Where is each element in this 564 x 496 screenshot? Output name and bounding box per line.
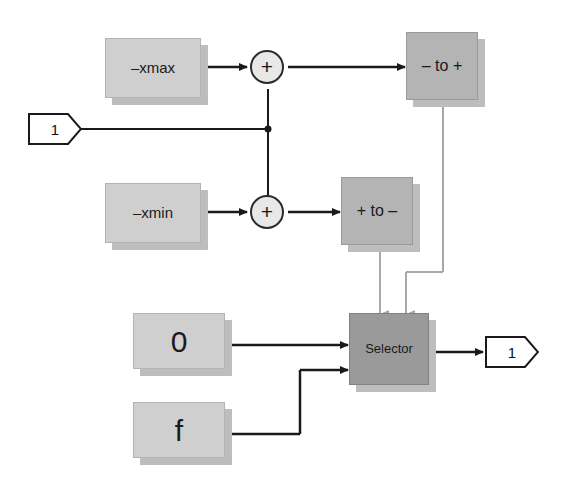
block-pos-to-neg[interactable]: + to – xyxy=(341,177,413,245)
wire-junction xyxy=(265,126,272,133)
sum-junction-bottom[interactable]: + xyxy=(250,195,284,229)
block-f-label: f xyxy=(175,414,183,447)
block-selector-label: Selector xyxy=(365,342,413,356)
block-neg-to-pos[interactable]: – to + xyxy=(406,32,478,100)
port-input-1[interactable]: 1 xyxy=(28,113,82,145)
block-selector[interactable]: Selector xyxy=(349,313,429,385)
block-xmax[interactable]: –xmax xyxy=(105,38,201,98)
block-diagram-canvas: –xmax –xmin – to + + to – 0 f Selector +… xyxy=(0,0,564,496)
block-zero-label: 0 xyxy=(171,325,188,358)
port-output-1-label: 1 xyxy=(508,344,516,361)
port-output-1[interactable]: 1 xyxy=(485,336,539,368)
sum-junction-top[interactable]: + xyxy=(250,50,284,84)
sum-junction-bottom-label: + xyxy=(261,200,273,224)
block-pos-to-neg-label: + to – xyxy=(357,202,397,220)
port-input-1-label: 1 xyxy=(51,121,59,138)
block-xmax-label: –xmax xyxy=(131,60,175,77)
block-xmin[interactable]: –xmin xyxy=(105,183,201,243)
block-neg-to-pos-label: – to + xyxy=(422,57,462,75)
sum-junction-top-label: + xyxy=(261,55,273,79)
block-f[interactable]: f xyxy=(133,402,225,458)
block-xmin-label: –xmin xyxy=(133,205,173,222)
block-zero[interactable]: 0 xyxy=(133,313,225,369)
